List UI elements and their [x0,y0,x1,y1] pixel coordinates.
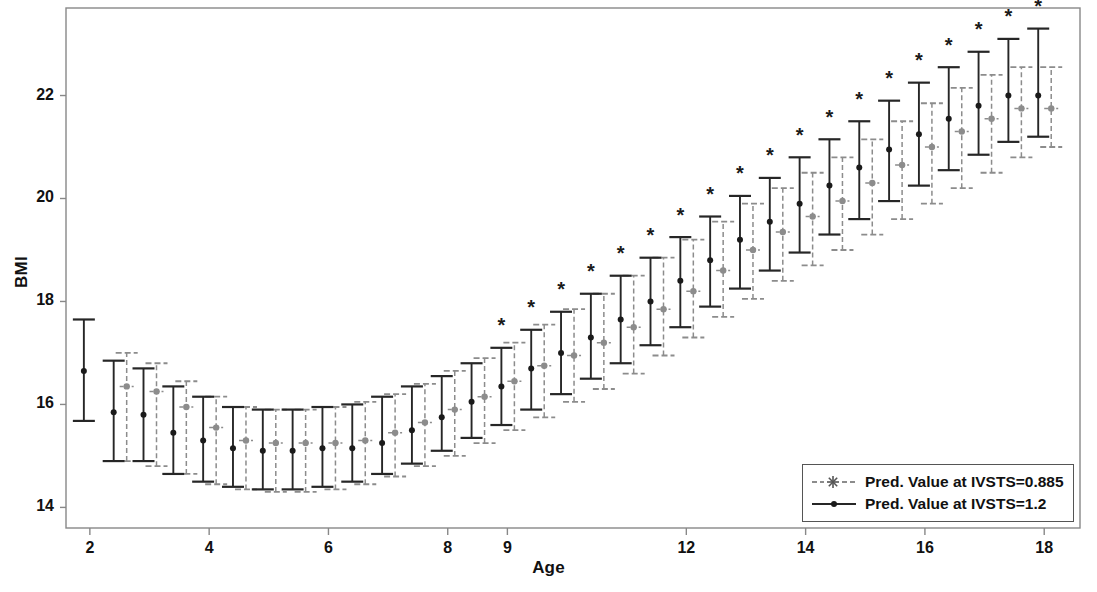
y-tick-label: 22 [8,86,54,104]
svg-text:*: * [796,124,804,146]
y-axis-title: BMI [12,256,32,288]
chart-legend: Pred. Value at IVSTS=0.885 Pred. Value a… [802,464,1074,522]
x-tick-label: 6 [303,539,353,557]
solid-dot-key [811,495,857,513]
x-tick-label: 14 [781,539,831,557]
plot-frame [66,8,1080,528]
dashed-asterisk-key [811,473,857,491]
x-axis-title: Age [532,558,565,577]
svg-text:*: * [497,314,505,336]
x-tick-label: 18 [1019,539,1069,557]
svg-text:*: * [587,260,595,282]
bmi-by-age-chart: ******************* BMI Age 141618202224… [0,0,1097,592]
svg-text:*: * [885,67,893,89]
y-tick-label: 14 [8,497,54,515]
x-tick-label: 8 [423,539,473,557]
svg-text:*: * [826,106,834,128]
svg-text:*: * [557,278,565,300]
svg-text:*: * [855,88,863,110]
x-axis-title-wrap: Age [0,558,1097,578]
svg-text:*: * [975,18,983,40]
svg-text:*: * [617,242,625,264]
x-tick-label: 4 [184,539,234,557]
svg-text:*: * [915,49,923,71]
x-tick-label: 2 [65,539,115,557]
x-tick-label: 16 [900,539,950,557]
y-tick-label: 18 [8,291,54,309]
significance-asterisks: ******************* [497,0,1042,336]
legend-item-ivsts-12: Pred. Value at IVSTS=1.2 [811,493,1063,515]
y-tick-label: 20 [8,188,54,206]
series-ivsts-12 [73,29,1049,490]
svg-text:*: * [945,34,953,56]
legend-label-ivsts-12: Pred. Value at IVSTS=1.2 [865,495,1046,513]
svg-text:*: * [706,183,714,205]
svg-text:*: * [676,204,684,226]
svg-text:*: * [647,224,655,246]
svg-text:*: * [766,144,774,166]
svg-text:*: * [1004,5,1012,27]
svg-text:*: * [1034,0,1042,17]
svg-text:*: * [527,296,535,318]
x-tick-label: 9 [482,539,532,557]
legend-item-ivsts-0885: Pred. Value at IVSTS=0.885 [811,471,1063,493]
legend-label-ivsts-0885: Pred. Value at IVSTS=0.885 [865,473,1064,491]
svg-text:*: * [736,162,744,184]
y-tick-label: 16 [8,394,54,412]
x-tick-label: 12 [661,539,711,557]
